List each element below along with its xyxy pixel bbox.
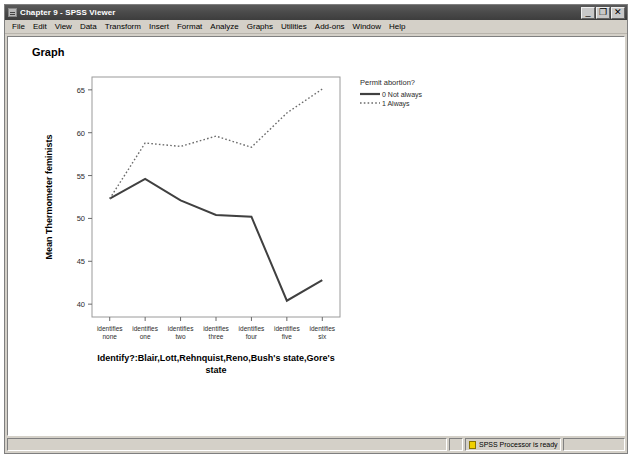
legend-label-0: 0 Not always xyxy=(382,91,423,99)
menu-item-format[interactable]: Format xyxy=(173,21,206,33)
menu-item-view[interactable]: View xyxy=(51,21,76,33)
y-tick-label: 40 xyxy=(77,300,85,309)
y-axis-title: Mean Thermometer feminists xyxy=(44,134,54,259)
menu-item-graphs[interactable]: Graphs xyxy=(243,21,277,33)
status-cell-right xyxy=(563,438,625,451)
x-tick-label: five xyxy=(282,333,293,340)
y-tick-label: 65 xyxy=(77,86,85,95)
window-controls: _ ❐ ✕ xyxy=(581,7,625,19)
menu-item-insert[interactable]: Insert xyxy=(145,21,173,33)
menu-item-edit[interactable]: Edit xyxy=(29,21,51,33)
menu-item-add-ons[interactable]: Add-ons xyxy=(311,21,349,33)
close-icon: ✕ xyxy=(612,8,624,18)
status-bar: SPSS Processor is ready xyxy=(5,436,627,453)
x-tick-label: six xyxy=(318,333,327,340)
close-button[interactable]: ✕ xyxy=(611,7,625,19)
restore-button[interactable]: ❐ xyxy=(596,7,610,19)
status-cell-spacer xyxy=(449,438,463,451)
x-tick-label: identifies xyxy=(168,325,194,332)
x-tick-label: identifies xyxy=(132,325,158,332)
x-tick-label: four xyxy=(246,333,258,340)
menu-item-transform[interactable]: Transform xyxy=(101,21,145,33)
menu-item-window[interactable]: Window xyxy=(349,21,385,33)
spss-viewer-window: Chapter 9 - SPSS Viewer _ ❐ ✕ File Edit … xyxy=(4,4,628,454)
x-tick-label: identifies xyxy=(203,325,229,332)
x-axis-title: Identify?:Blair,Lott,Rehnquist,Reno,Bush… xyxy=(97,353,334,363)
minimize-icon: _ xyxy=(582,8,594,18)
plot-frame xyxy=(92,77,340,317)
x-tick-label: identifies xyxy=(309,325,335,332)
title-bar: Chapter 9 - SPSS Viewer _ ❐ ✕ xyxy=(5,5,627,20)
y-tick-label: 55 xyxy=(77,172,85,181)
x-tick-label: two xyxy=(176,333,187,340)
legend-title: Permit abortion? xyxy=(360,78,415,87)
window-title: Chapter 9 - SPSS Viewer xyxy=(20,8,581,17)
chart-container[interactable]: 404550556065Mean Thermometer feministsid… xyxy=(30,67,440,407)
x-tick-label: identifies xyxy=(274,325,300,332)
spss-window-icon xyxy=(8,8,17,17)
x-tick-label: none xyxy=(102,333,117,340)
restore-icon: ❐ xyxy=(597,8,609,18)
y-tick-label: 45 xyxy=(77,257,85,266)
menu-item-analyze[interactable]: Analyze xyxy=(206,21,242,33)
y-tick-label: 60 xyxy=(77,129,85,138)
spss-processor-icon xyxy=(469,441,476,449)
menu-item-help[interactable]: Help xyxy=(385,21,409,33)
minimize-button[interactable]: _ xyxy=(581,7,595,19)
x-tick-label: identifies xyxy=(97,325,123,332)
x-tick-label: one xyxy=(140,333,151,340)
status-message-text: SPSS Processor is ready xyxy=(479,441,558,448)
menu-item-utilities[interactable]: Utilities xyxy=(277,21,311,33)
menu-item-file[interactable]: File xyxy=(8,21,29,33)
line-chart: 404550556065Mean Thermometer feministsid… xyxy=(30,67,440,407)
graph-output-heading: Graph xyxy=(32,46,64,58)
status-cell-left xyxy=(7,438,447,451)
menu-bar: File Edit View Data Transform Insert For… xyxy=(5,20,627,34)
output-document-pane[interactable]: Graph 404550556065Mean Thermometer femin… xyxy=(7,36,625,436)
legend-label-1: 1 Always xyxy=(382,100,410,108)
x-tick-label: identifies xyxy=(239,325,265,332)
y-tick-label: 50 xyxy=(77,214,85,223)
viewer-body: Graph 404550556065Mean Thermometer femin… xyxy=(5,34,627,436)
x-axis-title: state xyxy=(205,365,226,375)
menu-item-data[interactable]: Data xyxy=(76,21,101,33)
x-tick-label: three xyxy=(209,333,224,340)
status-message-cell: SPSS Processor is ready xyxy=(465,438,561,451)
